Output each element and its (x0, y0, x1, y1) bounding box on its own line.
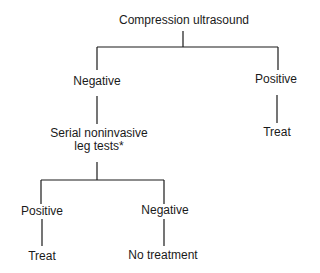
node-positive-level1: Positive (255, 73, 297, 86)
outcome-no-treatment: No treatment (128, 249, 197, 262)
outcome-treat-level1: Treat (263, 126, 291, 139)
node-negative-level1: Negative (73, 75, 120, 88)
root-node-compression-ultrasound: Compression ultrasound (119, 14, 249, 27)
node-negative-level2: Negative (141, 204, 188, 217)
outcome-treat-level2: Treat (28, 250, 56, 263)
serial-tests-line2: leg tests* (50, 140, 147, 153)
node-serial-noninvasive-leg-tests: Serial noninvasive leg tests* (50, 127, 147, 153)
node-positive-level2: Positive (21, 205, 63, 218)
